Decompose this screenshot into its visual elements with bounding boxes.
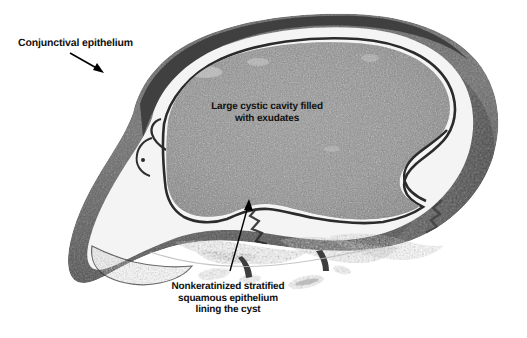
label-nonkeratinized-epithelium: Nonkeratinized stratifiedsquamous epithe… xyxy=(150,281,306,316)
figure-root: Conjunctival epithelium Large cystic cav… xyxy=(0,0,527,338)
label-cystic-cavity-line-1: Large cystic cavity filled xyxy=(211,101,323,112)
label-conjunctival-epithelium: Conjunctival epithelium xyxy=(18,38,133,50)
label-nonkeratinized-line-1: Nonkeratinized stratified xyxy=(172,281,285,292)
label-nonkeratinized-line-2: squamous epithelium xyxy=(178,293,278,304)
label-nonkeratinized-line-3: lining the cyst xyxy=(196,304,261,315)
label-cystic-cavity-line-2: with exudates xyxy=(235,113,299,124)
micrograph-image: Conjunctival epithelium Large cystic cav… xyxy=(0,0,527,338)
label-cystic-cavity: Large cystic cavity filledwith exudates xyxy=(194,101,340,125)
